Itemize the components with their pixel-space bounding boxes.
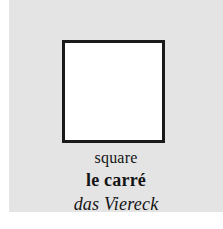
label-group: square le carré das Viereck <box>9 146 223 212</box>
label-german: das Viereck <box>9 195 223 212</box>
label-english: square <box>9 150 223 166</box>
square-outline-icon <box>62 40 165 143</box>
shape-illustration-area <box>9 0 223 146</box>
flashcard: square le carré das Viereck <box>9 0 223 212</box>
label-french: le carré <box>9 171 223 189</box>
